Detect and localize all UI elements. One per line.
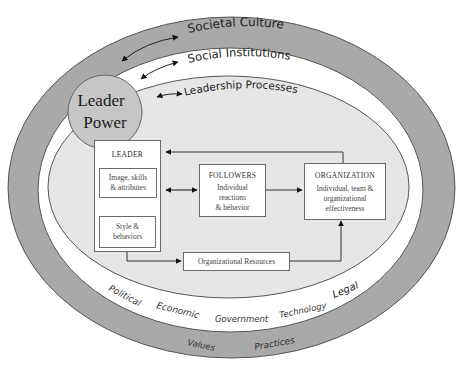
leader-power-circle xyxy=(68,75,142,149)
leader-box-title: LEADER xyxy=(95,150,160,159)
organization-line3: effectiveness xyxy=(305,204,385,214)
followers-line1: Individual xyxy=(200,183,265,193)
style-behaviors-line1: Style & xyxy=(100,222,155,232)
image-skills-box: Image, skills & attributes xyxy=(99,168,157,198)
organization-line2: organizational xyxy=(305,194,385,204)
image-skills-line2: & attributes xyxy=(100,183,156,193)
style-behaviors-line2: behaviors xyxy=(100,232,155,242)
organizational-resources-box: Organizational Resources xyxy=(183,252,290,271)
organizational-resources-label: Organizational Resources xyxy=(184,257,289,267)
followers-title: FOLLOWERS xyxy=(200,171,265,180)
organization-box: ORGANIZATION Individual, team & organiza… xyxy=(304,163,386,220)
label-government: Government xyxy=(215,314,269,324)
leader-power-line1: Leader xyxy=(77,91,125,110)
followers-line2: reactions xyxy=(200,193,265,203)
organization-line1: Individual, team & xyxy=(305,184,385,194)
organization-title: ORGANIZATION xyxy=(305,171,385,180)
followers-box: FOLLOWERS Individual reactions & behavio… xyxy=(199,164,266,217)
style-behaviors-box: Style & behaviors xyxy=(99,216,156,248)
image-skills-line1: Image, skills xyxy=(100,173,156,183)
leader-power-line2: Power xyxy=(83,113,127,132)
followers-line3: & behavior xyxy=(200,203,265,213)
